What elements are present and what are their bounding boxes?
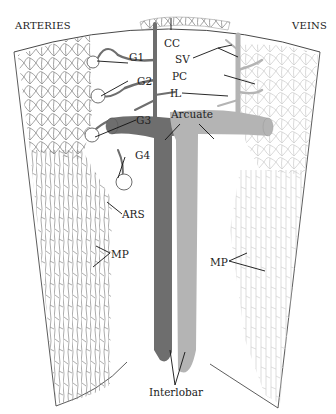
glomerulus-g1: [87, 56, 99, 68]
label-pc: PC: [172, 71, 187, 82]
kidney-vasculature-diagram: [0, 0, 336, 414]
cortical-capillary-mesh-venous: [235, 44, 318, 175]
medullary-plexus-venous: [230, 170, 305, 404]
glomerulus-g3: [85, 128, 99, 142]
label-ars: ARS: [122, 209, 145, 220]
label-interlobar: Interlobar: [149, 387, 203, 398]
veins-heading: VEINS: [292, 21, 327, 31]
label-il: IL: [170, 88, 181, 99]
label-mp-right: MP: [210, 257, 228, 268]
glomerulus-g2: [91, 89, 105, 103]
medullary-plexus-arterial: [30, 150, 112, 404]
label-g2: G2: [137, 76, 152, 87]
cortical-capillary-mesh-arterial: [18, 36, 92, 160]
label-mp-left: MP: [111, 249, 129, 260]
label-g1: G1: [129, 52, 144, 63]
arcuate-vein-lumen: [263, 118, 273, 136]
label-g4: G4: [135, 150, 150, 161]
arteries-heading: ARTERIES: [15, 21, 71, 31]
label-arcuate: Arcuate: [171, 109, 213, 120]
label-cc: CC: [164, 38, 180, 49]
label-sv: SV: [175, 54, 190, 65]
label-g3: G3: [136, 115, 151, 126]
